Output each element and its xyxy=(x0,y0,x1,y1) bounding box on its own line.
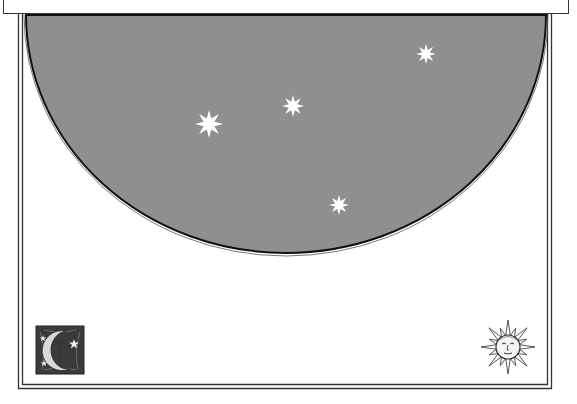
scene xyxy=(0,0,577,404)
night-sky-fill xyxy=(26,15,546,253)
sun-face-icon xyxy=(481,320,535,374)
star-medium-icon xyxy=(282,95,304,117)
star-lower-icon xyxy=(329,195,349,215)
night-sky xyxy=(24,15,548,256)
crescent-moon-icon xyxy=(36,326,84,374)
star-large-icon xyxy=(195,110,223,138)
star-top-right-icon xyxy=(416,44,436,64)
top-bar xyxy=(3,0,569,14)
